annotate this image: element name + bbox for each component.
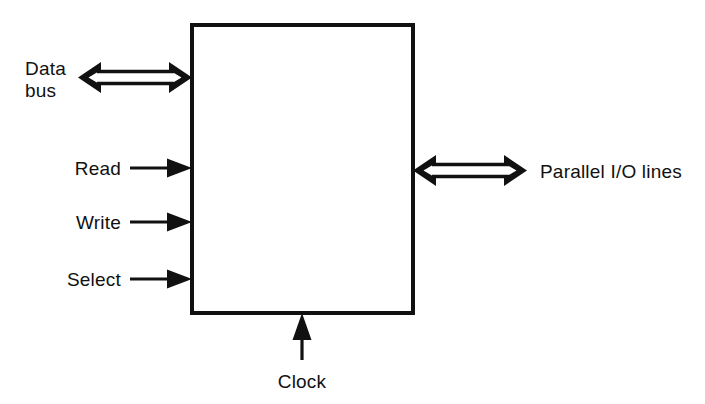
block-diagram: Data bus Read Write Select Paral — [0, 0, 705, 404]
read-arrow — [130, 159, 192, 178]
diagram-canvas: Data bus Read Write Select Paral — [0, 0, 705, 404]
data-bus-label-line1: Data — [25, 58, 66, 79]
read-label: Read — [75, 158, 121, 179]
clock-label: Clock — [278, 371, 327, 392]
data-bus-arrow — [78, 62, 192, 93]
clock-arrow — [293, 313, 312, 360]
select-label: Select — [67, 269, 122, 290]
write-label: Write — [76, 212, 121, 233]
data-bus-label-line2: bus — [25, 80, 56, 101]
parallel-io-arrow — [413, 155, 527, 186]
parallel-io-label: Parallel I/O lines — [540, 161, 682, 182]
select-arrow — [130, 270, 192, 289]
write-arrow — [130, 213, 192, 232]
interface-block — [192, 25, 413, 313]
